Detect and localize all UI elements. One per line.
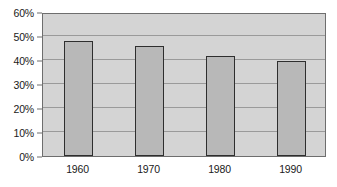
- x-axis: 1960197019801990: [42, 157, 326, 187]
- gridline: [43, 35, 325, 36]
- x-tick-label-1980: 1980: [208, 163, 231, 175]
- bar-1970: [135, 46, 164, 156]
- y-tick-label: 50%: [14, 31, 34, 43]
- y-tick-label: 40%: [14, 55, 34, 67]
- y-tick-mark: [37, 109, 42, 110]
- y-tick-mark: [37, 37, 42, 38]
- y-tick-label: 0%: [19, 151, 34, 163]
- bar-1980: [206, 56, 235, 156]
- y-tick-label: 30%: [14, 79, 34, 91]
- y-axis: 0%10%20%30%40%50%60%: [0, 0, 42, 187]
- bar-1960: [64, 41, 93, 156]
- bar-1990: [277, 61, 306, 156]
- x-tick-label-1990: 1990: [279, 163, 302, 175]
- y-tick-mark: [37, 85, 42, 86]
- x-tick-label-1970: 1970: [137, 163, 160, 175]
- x-tick-label-1960: 1960: [66, 163, 89, 175]
- y-tick-mark: [37, 13, 42, 14]
- y-tick-mark: [37, 61, 42, 62]
- y-tick-label: 60%: [14, 7, 34, 19]
- y-tick-label: 10%: [14, 127, 34, 139]
- plot-area: [42, 13, 326, 157]
- y-tick-mark: [37, 133, 42, 134]
- y-tick-label: 20%: [14, 103, 34, 115]
- bar-chart: 0%10%20%30%40%50%60% 1960197019801990: [0, 0, 337, 187]
